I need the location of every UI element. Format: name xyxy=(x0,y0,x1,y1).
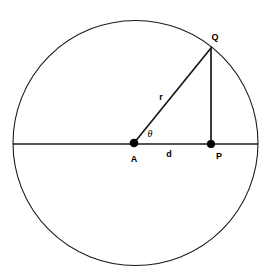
vertex-dot-a xyxy=(130,139,139,148)
label-point-a: A xyxy=(131,155,138,164)
diagram-canvas xyxy=(0,0,270,273)
geometry-diagram: A P Q r d θ xyxy=(0,0,270,273)
label-distance: d xyxy=(166,150,172,159)
label-point-q: Q xyxy=(211,33,218,42)
radius-segment-AQ xyxy=(134,48,211,143)
vertex-dot-p xyxy=(207,140,215,148)
label-radius: r xyxy=(159,93,163,102)
label-angle-theta: θ xyxy=(148,129,153,139)
label-point-p: P xyxy=(216,152,222,161)
